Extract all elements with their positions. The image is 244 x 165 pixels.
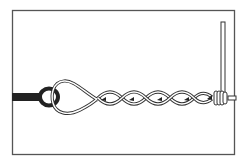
twisted-wire: [98, 92, 212, 104]
diagram-canvas: [0, 0, 244, 165]
post-wrap: [214, 91, 227, 105]
wire-tie-diagram: Line drawing of a twisted wire tie / spl…: [0, 0, 244, 165]
post: [221, 22, 236, 100]
frame-border: [13, 11, 235, 155]
